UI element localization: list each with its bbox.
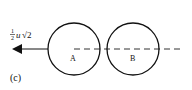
panel-label: (c)	[10, 72, 21, 84]
velocity-label: 1 2 u √2	[10, 28, 31, 41]
collision-diagram: 1 2 u √2 A B (c)	[0, 0, 192, 90]
arrowhead-left-icon	[12, 44, 22, 54]
velocity-symbol: u	[16, 30, 21, 40]
velocity-radical: √2	[22, 30, 31, 40]
fraction-denominator: 2	[11, 35, 14, 41]
fraction-numerator: 1	[11, 28, 14, 34]
ball-a-label: A	[70, 54, 76, 63]
ball-b-label: B	[130, 54, 135, 63]
